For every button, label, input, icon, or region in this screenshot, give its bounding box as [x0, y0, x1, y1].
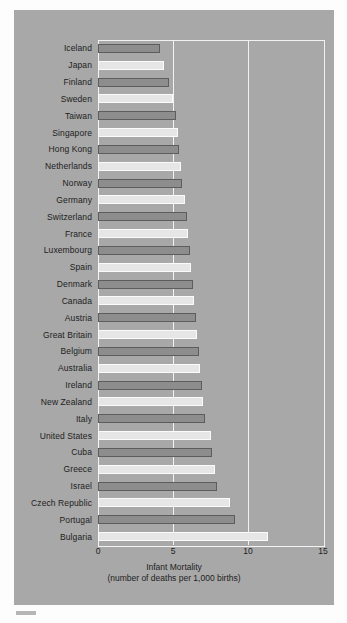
- bar: [98, 330, 197, 339]
- bar: [98, 145, 179, 154]
- category-label: New Zealand: [14, 397, 92, 407]
- bar-row: Portugal: [14, 511, 334, 528]
- bar: [98, 381, 202, 390]
- category-label: Bulgaria: [14, 532, 92, 542]
- bar-row: Taiwan: [14, 107, 334, 124]
- category-label: Sweden: [14, 94, 92, 104]
- category-label: Japan: [14, 60, 92, 70]
- bar-row: Netherlands: [14, 158, 334, 175]
- bar-row: Canada: [14, 293, 334, 310]
- category-label: Czech Republic: [14, 498, 92, 508]
- bar: [98, 296, 194, 305]
- figure-bottom-marker: [16, 611, 36, 615]
- bar-row: Germany: [14, 192, 334, 209]
- bar-row: Czech Republic: [14, 495, 334, 512]
- bar-row: United States: [14, 427, 334, 444]
- bar-row: Sweden: [14, 91, 334, 108]
- bar: [98, 162, 181, 171]
- bar-row: Ireland: [14, 377, 334, 394]
- bar-rows: IcelandJapanFinlandSwedenTaiwanSingapore…: [14, 40, 334, 545]
- category-label: Australia: [14, 363, 92, 373]
- category-label: Denmark: [14, 279, 92, 289]
- bar-row: Iceland: [14, 40, 334, 57]
- category-label: Canada: [14, 296, 92, 306]
- bar-row: Bulgaria: [14, 528, 334, 545]
- bar-row: Belgium: [14, 343, 334, 360]
- bar: [98, 482, 217, 491]
- bar: [98, 280, 193, 289]
- bar: [98, 532, 268, 541]
- category-label: Great Britain: [14, 330, 92, 340]
- bar-row: Austria: [14, 309, 334, 326]
- bar: [98, 246, 190, 255]
- category-label: Austria: [14, 313, 92, 323]
- category-label: Israel: [14, 481, 92, 491]
- bar: [98, 498, 230, 507]
- bar-row: Japan: [14, 57, 334, 74]
- bar: [98, 397, 203, 406]
- category-label: Ireland: [14, 380, 92, 390]
- infant-mortality-bar-chart-figure: IcelandJapanFinlandSwedenTaiwanSingapore…: [0, 0, 347, 623]
- bar: [98, 111, 176, 120]
- bar: [98, 263, 191, 272]
- bar: [98, 128, 178, 137]
- bar: [98, 61, 164, 70]
- category-label: Taiwan: [14, 111, 92, 121]
- bar-row: France: [14, 225, 334, 242]
- bar-row: Hong Kong: [14, 141, 334, 158]
- x-tick-label: 15: [318, 546, 327, 556]
- bar-row: Greece: [14, 461, 334, 478]
- category-label: Belgium: [14, 346, 92, 356]
- bar-row: Finland: [14, 74, 334, 91]
- x-tick-label: 10: [243, 546, 252, 556]
- x-tick-label: 5: [171, 546, 176, 556]
- x-axis-title-line2: (number of deaths per 1,000 births): [14, 573, 334, 584]
- bar-row: Israel: [14, 478, 334, 495]
- category-label: Hong Kong: [14, 144, 92, 154]
- category-label: Germany: [14, 195, 92, 205]
- bar: [98, 347, 199, 356]
- x-axis-title: Infant Mortality (number of deaths per 1…: [14, 562, 334, 584]
- category-label: France: [14, 229, 92, 239]
- bar-row: Singapore: [14, 124, 334, 141]
- x-tick-label: 0: [96, 546, 101, 556]
- bar: [98, 313, 196, 322]
- bar: [98, 414, 205, 423]
- bar-row: Australia: [14, 360, 334, 377]
- bar-row: Denmark: [14, 276, 334, 293]
- bar-row: Switzerland: [14, 208, 334, 225]
- bar-row: New Zealand: [14, 394, 334, 411]
- bar: [98, 465, 215, 474]
- category-label: Finland: [14, 77, 92, 87]
- bar: [98, 78, 169, 87]
- x-axis-ticks: 051015: [14, 546, 334, 560]
- bar-row: Norway: [14, 175, 334, 192]
- bar-row: Luxembourg: [14, 242, 334, 259]
- bar: [98, 212, 187, 221]
- category-label: Spain: [14, 262, 92, 272]
- category-label: Switzerland: [14, 212, 92, 222]
- bar: [98, 179, 182, 188]
- bar: [98, 94, 173, 103]
- bar: [98, 229, 188, 238]
- category-label: United States: [14, 431, 92, 441]
- category-label: Greece: [14, 464, 92, 474]
- category-label: Netherlands: [14, 161, 92, 171]
- bar: [98, 195, 185, 204]
- bar: [98, 364, 200, 373]
- category-label: Norway: [14, 178, 92, 188]
- category-label: Portugal: [14, 515, 92, 525]
- category-label: Luxembourg: [14, 245, 92, 255]
- bar: [98, 431, 211, 440]
- bar-row: Spain: [14, 259, 334, 276]
- bar-row: Italy: [14, 410, 334, 427]
- bar: [98, 515, 235, 524]
- category-label: Iceland: [14, 43, 92, 53]
- bar-row: Great Britain: [14, 326, 334, 343]
- bar: [98, 44, 160, 53]
- chart-panel: IcelandJapanFinlandSwedenTaiwanSingapore…: [14, 10, 334, 605]
- bar-row: Cuba: [14, 444, 334, 461]
- category-label: Cuba: [14, 447, 92, 457]
- category-label: Italy: [14, 414, 92, 424]
- bar: [98, 448, 212, 457]
